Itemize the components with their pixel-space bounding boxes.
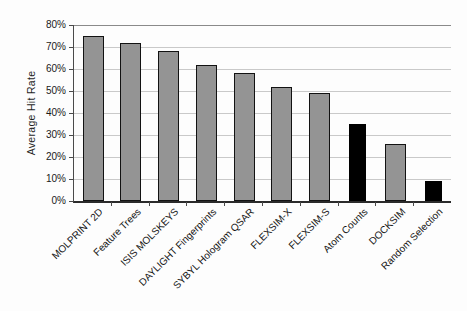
y-tick-mark	[69, 69, 73, 70]
bar-chart-figure: Average Hit Rate 80%70%60%50%40%30%20%10…	[0, 0, 467, 311]
y-tick-label: 0%	[20, 195, 66, 207]
y-tick-mark	[69, 25, 73, 26]
y-tick-mark	[69, 113, 73, 114]
y-tick-label: 50%	[20, 85, 66, 97]
y-tick-mark	[69, 47, 73, 48]
y-tick-mark	[69, 179, 73, 180]
y-tick-label: 40%	[20, 107, 66, 119]
y-tick-label: 30%	[20, 129, 66, 141]
bar-flexsim-s	[309, 93, 330, 201]
bar-sybyl-hologram-qsar	[234, 73, 255, 201]
y-tick-mark	[69, 201, 73, 202]
x-tick-mark	[338, 202, 339, 206]
y-tick-label: 20%	[20, 151, 66, 163]
x-tick-mark	[186, 202, 187, 206]
bar-random-selection	[425, 181, 442, 201]
bar-molprint-2d	[83, 36, 104, 201]
x-tick-mark	[149, 202, 150, 206]
bar-flexsim-x	[271, 87, 292, 201]
bar-feature-trees	[120, 43, 141, 201]
bar-isis-molskeys	[158, 51, 179, 201]
bar-docksim	[385, 144, 406, 201]
x-tick-mark	[300, 202, 301, 206]
y-tick-label: 60%	[20, 63, 66, 75]
x-tick-mark	[413, 202, 414, 206]
plot-area	[73, 25, 451, 203]
y-tick-mark	[69, 135, 73, 136]
x-tick-mark	[375, 202, 376, 206]
bar-daylight-fingerprints	[196, 65, 217, 201]
y-tick-label: 80%	[20, 19, 66, 31]
x-tick-mark	[262, 202, 263, 206]
bar-atom-counts	[349, 124, 366, 201]
y-tick-mark	[69, 157, 73, 158]
y-tick-mark	[69, 91, 73, 92]
y-tick-label: 10%	[20, 173, 66, 185]
y-tick-label: 70%	[20, 41, 66, 53]
x-tick-mark	[224, 202, 225, 206]
x-tick-mark	[111, 202, 112, 206]
gridline	[74, 25, 451, 26]
